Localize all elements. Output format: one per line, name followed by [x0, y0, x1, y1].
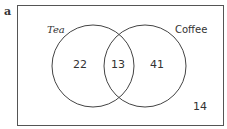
figure-label: a — [4, 5, 11, 18]
coffee-label: Coffee — [175, 24, 207, 35]
intersection-value: 13 — [111, 58, 125, 71]
tea-only-value: 22 — [73, 58, 87, 71]
coffee-only-value: 41 — [150, 58, 164, 71]
outside-value: 14 — [193, 100, 207, 113]
tea-label: Tea — [47, 24, 65, 35]
